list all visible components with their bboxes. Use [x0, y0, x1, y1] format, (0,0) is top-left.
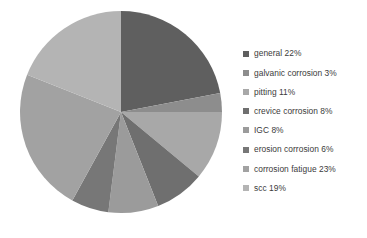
- legend-swatch-icon: [243, 108, 249, 114]
- pie-chart-plot-area: [0, 0, 238, 238]
- legend-label: IGC 8%: [254, 126, 284, 134]
- legend-item-galvanic-corrosion[interactable]: galvanic corrosion 3%: [243, 63, 367, 82]
- legend-item-general[interactable]: general 22%: [243, 44, 367, 63]
- legend-label: crevice corrosion 8%: [254, 107, 333, 115]
- legend-swatch-icon: [243, 127, 249, 133]
- legend-swatch-icon: [243, 166, 249, 172]
- legend-item-igc[interactable]: IGC 8%: [243, 121, 367, 140]
- legend-item-pitting[interactable]: pitting 11%: [243, 82, 367, 101]
- legend-swatch-icon: [243, 70, 249, 76]
- pie-chart-svg: [0, 0, 238, 238]
- legend-swatch-icon: [243, 51, 249, 57]
- legend-label: galvanic corrosion 3%: [254, 69, 337, 77]
- legend-swatch-icon: [243, 89, 249, 95]
- chart-legend: general 22%galvanic corrosion 3%pitting …: [243, 44, 367, 198]
- legend-label: scc 19%: [254, 184, 286, 192]
- legend-item-crevice-corrosion[interactable]: crevice corrosion 8%: [243, 102, 367, 121]
- legend-label: general 22%: [254, 49, 301, 57]
- legend-swatch-icon: [243, 185, 249, 191]
- legend-item-corrosion-fatigue[interactable]: corrosion fatigue 23%: [243, 159, 367, 178]
- pie-chart-figure: general 22%galvanic corrosion 3%pitting …: [0, 0, 367, 238]
- legend-label: corrosion fatigue 23%: [254, 165, 336, 173]
- legend-item-erosion-corrosion[interactable]: erosion corrosion 6%: [243, 140, 367, 159]
- legend-swatch-icon: [243, 147, 249, 153]
- pie-slice-group: [20, 11, 222, 213]
- legend-label: pitting 11%: [254, 88, 295, 96]
- legend-label: erosion corrosion 6%: [254, 145, 333, 153]
- legend-item-scc[interactable]: scc 19%: [243, 178, 367, 197]
